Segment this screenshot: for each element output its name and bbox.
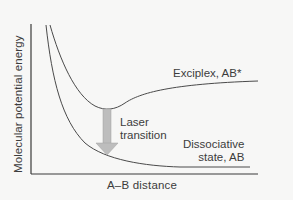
dissociative-state-label: Dissociative state, AB xyxy=(183,138,244,164)
potential-energy-diagram xyxy=(0,0,293,200)
y-axis-label: Molecular potential energy xyxy=(12,36,24,173)
x-axis-label: A–B distance xyxy=(107,179,177,191)
exciplex-label: Exciplex, AB* xyxy=(173,67,241,80)
dissociative-label-line1: Dissociative xyxy=(183,138,244,151)
laser-transition-label: Laser transition xyxy=(120,116,167,142)
laser-transition-label-line1: Laser xyxy=(120,116,167,129)
laser-transition-label-line2: transition xyxy=(120,129,167,142)
dissociative-label-line2: state, AB xyxy=(183,151,244,164)
laser-transition-arrow-icon xyxy=(96,109,118,155)
